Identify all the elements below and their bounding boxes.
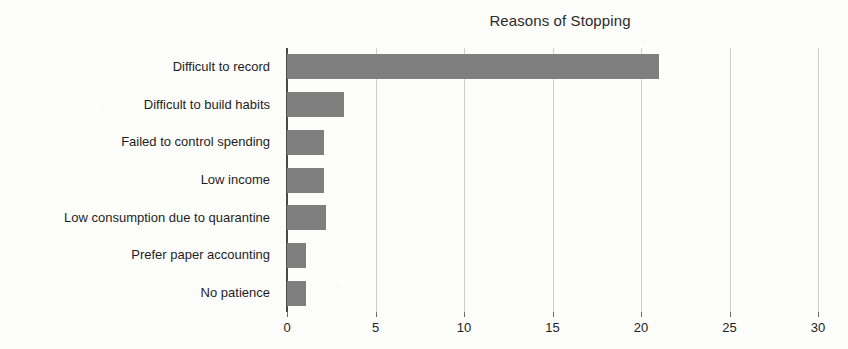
gridline-10 bbox=[464, 48, 465, 312]
category-label: Failed to control spending bbox=[121, 134, 270, 149]
x-tick-mark-5 bbox=[376, 312, 377, 317]
chart-title: Reasons of Stopping bbox=[136, 12, 848, 29]
category-label: Difficult to build habits bbox=[144, 97, 270, 112]
x-tick-mark-15 bbox=[553, 312, 554, 317]
x-tick-label-10: 10 bbox=[457, 320, 471, 335]
x-tick-label-30: 30 bbox=[811, 320, 825, 335]
gridline-5 bbox=[376, 48, 377, 312]
x-tick-label-20: 20 bbox=[634, 320, 648, 335]
x-tick-mark-10 bbox=[464, 312, 465, 317]
x-tick-mark-0 bbox=[287, 312, 288, 317]
bar bbox=[287, 54, 659, 79]
gridline-30 bbox=[818, 48, 819, 312]
bar-chart: Reasons of Stopping 051015202530 Difficu… bbox=[0, 0, 848, 349]
bar bbox=[287, 92, 344, 117]
gridline-20 bbox=[641, 48, 642, 312]
bar bbox=[287, 281, 306, 306]
bar bbox=[287, 205, 326, 230]
x-tick-mark-20 bbox=[641, 312, 642, 317]
category-label: Low income bbox=[201, 172, 270, 187]
category-label: Prefer paper accounting bbox=[131, 247, 270, 262]
bar bbox=[287, 168, 324, 193]
x-tick-mark-25 bbox=[730, 312, 731, 317]
x-tick-label-0: 0 bbox=[283, 320, 290, 335]
x-tick-label-25: 25 bbox=[722, 320, 736, 335]
x-tick-mark-30 bbox=[818, 312, 819, 317]
bar bbox=[287, 130, 324, 155]
category-label: Low consumption due to quarantine bbox=[64, 210, 270, 225]
x-tick-label-5: 5 bbox=[372, 320, 379, 335]
gridline-15 bbox=[553, 48, 554, 312]
category-label: Difficult to record bbox=[173, 59, 270, 74]
gridline-25 bbox=[730, 48, 731, 312]
category-label: No patience bbox=[201, 285, 270, 300]
x-tick-label-15: 15 bbox=[545, 320, 559, 335]
bar bbox=[287, 243, 306, 268]
plot-area: 051015202530 bbox=[287, 48, 818, 312]
